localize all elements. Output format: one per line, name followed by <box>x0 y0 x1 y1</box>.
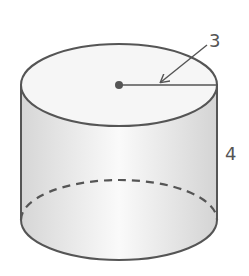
radius-label: 3 <box>209 30 220 51</box>
height-label: 4 <box>225 143 236 164</box>
cylinder-diagram: 3 4 <box>0 0 249 276</box>
center-point <box>115 81 123 89</box>
